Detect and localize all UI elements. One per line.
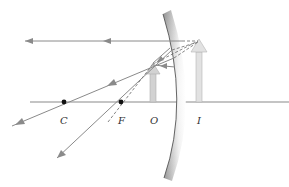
label-I: I — [196, 115, 202, 126]
arrowhead-icon — [103, 38, 111, 44]
label-C: C — [60, 115, 68, 126]
concave-mirror — [163, 10, 186, 181]
ray-diagram: C F O I — [0, 0, 289, 187]
point-C — [62, 100, 67, 105]
point-F — [119, 100, 124, 105]
arrowhead-icon — [25, 38, 33, 44]
label-F: F — [117, 115, 126, 126]
arrowhead-icon — [15, 118, 25, 125]
arrowhead-icon — [107, 79, 117, 86]
image-arrow — [191, 39, 207, 102]
label-O: O — [150, 115, 158, 126]
